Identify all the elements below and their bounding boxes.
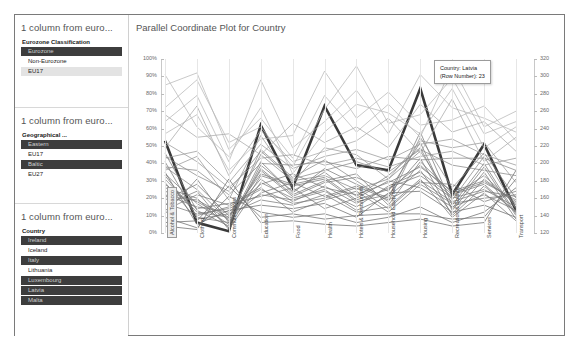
category-gridline	[165, 59, 166, 233]
y-axis-left-tick	[161, 111, 164, 112]
filter-option-eu17[interactable]: EU17	[21, 67, 122, 76]
y-axis-left-tick	[161, 233, 164, 234]
y-axis-left-tick	[161, 181, 164, 182]
parallel-coordinate-plot[interactable]: 0%10%20%30%40%50%60%70%80%90%100% 120140…	[129, 37, 566, 337]
y-axis-right-tick	[534, 146, 537, 147]
filter-option-eu17[interactable]: EU17	[21, 150, 122, 159]
filter-option-italy[interactable]: Italy	[21, 256, 122, 265]
filter-card-title: 1 column from euro...	[15, 15, 128, 39]
filter-field-name: Country	[15, 228, 128, 236]
category-gridline	[420, 59, 421, 233]
category-gridline	[197, 59, 198, 233]
filter-card-country: 1 column from euro... Country Ireland Ic…	[15, 204, 128, 337]
y-axis-right-label: 160	[540, 194, 549, 200]
chart-tooltip: Country: Latvia (Row Number): 23	[434, 60, 491, 84]
y-axis-left-label: 20%	[129, 194, 157, 200]
filter-card-title: 1 column from euro...	[15, 204, 128, 228]
filter-option-iceland[interactable]: Iceland	[21, 246, 122, 255]
y-axis-left-tick	[161, 163, 164, 164]
y-axis-left-label: 80%	[129, 90, 157, 96]
y-axis-left-label: 10%	[129, 212, 157, 218]
category-gridline	[325, 59, 326, 233]
filter-option-lithuania[interactable]: Lithuania	[21, 266, 122, 275]
filter-option-baltic[interactable]: Baltic	[21, 160, 122, 169]
filter-option-malta[interactable]: Malta	[21, 296, 122, 305]
filter-card-geographical: 1 column from euro... Geographical ... E…	[15, 108, 128, 204]
category-gridline	[293, 59, 294, 233]
filter-option-ireland[interactable]: Ireland	[21, 236, 122, 245]
x-axis-category-label[interactable]: Health	[327, 222, 333, 238]
filter-field-name: Eurozone Classification	[15, 39, 128, 47]
filter-option-non-eurozone[interactable]: Non-Eurozone	[21, 57, 122, 66]
series-line[interactable]	[165, 148, 516, 226]
filter-option-eastern[interactable]: Eastern	[21, 140, 122, 149]
filter-option-latvia[interactable]: Latvia	[21, 286, 122, 295]
y-axis-right-label: 240	[540, 125, 549, 131]
x-axis-category-label[interactable]: Food	[295, 225, 301, 238]
y-axis-right-tick	[534, 129, 537, 130]
y-axis-left-label: 50%	[129, 142, 157, 148]
y-axis-right-label: 320	[540, 55, 549, 61]
tooltip-line-country: Country: Latvia	[440, 64, 485, 72]
filter-option-eurozone[interactable]: Eurozone	[21, 47, 122, 56]
filter-option-luxembourg[interactable]: Luxembourg	[21, 276, 122, 285]
y-axis-left-label: 60%	[129, 125, 157, 131]
y-axis-left-label: 30%	[129, 177, 157, 183]
filter-column: 1 column from euro... Eurozone Classific…	[15, 15, 129, 335]
y-axis-right-tick	[534, 216, 537, 217]
y-axis-right-tick	[534, 163, 537, 164]
x-axis-category-label[interactable]: Recreation & Culture	[454, 187, 460, 238]
y-axis-right-tick	[534, 111, 537, 112]
y-axis-right-tick	[534, 94, 537, 95]
y-axis-right-label: 300	[540, 72, 549, 78]
y-axis-left-label: 40%	[129, 159, 157, 165]
x-axis-category-label[interactable]: Clothing	[199, 218, 205, 238]
x-axis-category-label[interactable]: Hotels & Restaurants	[358, 186, 364, 238]
screenshot-root: 1 column from euro... Eurozone Classific…	[0, 0, 579, 352]
x-axis-category-label[interactable]: Communications	[231, 197, 237, 238]
y-axis-left-tick	[161, 94, 164, 95]
x-axis-category-label[interactable]: Housing	[422, 218, 428, 238]
filter-option-list: Eastern EU17 Baltic EU27	[15, 140, 128, 186]
y-axis-left-tick	[161, 216, 164, 217]
y-axis-left-label: 0%	[129, 229, 157, 235]
filter-option-list: Eurozone Non-Eurozone EU17	[15, 47, 128, 83]
category-gridline	[484, 59, 485, 233]
y-axis-right-label: 200	[540, 159, 549, 165]
x-axis-category-label[interactable]: Services	[486, 217, 492, 238]
chart-title: Parallel Coordinate Plot for Country	[129, 15, 564, 33]
x-axis-category-label[interactable]: Household Equipment	[390, 184, 396, 238]
y-axis-right-label: 260	[540, 107, 549, 113]
category-gridline	[516, 59, 517, 233]
y-axis-right-tick	[534, 59, 537, 60]
series-line[interactable]	[165, 75, 516, 174]
filter-card-eurozone-classification: 1 column from euro... Eurozone Classific…	[15, 15, 128, 108]
category-gridline	[229, 59, 230, 233]
y-axis-right-label: 220	[540, 142, 549, 148]
y-axis-right-tick	[534, 76, 537, 77]
y-axis-left-tick	[161, 76, 164, 77]
y-axis-left-label: 70%	[129, 107, 157, 113]
plot-lines-svg	[129, 37, 566, 337]
category-gridline	[261, 59, 262, 233]
x-axis-category-label[interactable]: Transport	[518, 215, 524, 238]
filter-option-list: Ireland Iceland Italy Lithuania Luxembou…	[15, 236, 128, 312]
tooltip-line-row-number: (Row Number): 23	[440, 72, 485, 80]
filter-option-eu27[interactable]: EU27	[21, 170, 122, 179]
y-axis-right-tick	[534, 181, 537, 182]
y-axis-left-tick	[161, 59, 164, 60]
y-axis-right-tick	[534, 198, 537, 199]
filter-field-name: Geographical ...	[15, 132, 128, 140]
chart-panel: Parallel Coordinate Plot for Country 0%1…	[129, 15, 564, 335]
dashboard-frame: 1 column from euro... Eurozone Classific…	[14, 14, 565, 336]
filter-card-title: 1 column from euro...	[15, 108, 128, 132]
y-axis-right-label: 140	[540, 212, 549, 218]
y-axis-right-tick	[534, 233, 537, 234]
y-axis-left-tick	[161, 198, 164, 199]
y-axis-right-label: 120	[540, 229, 549, 235]
y-axis-left-label: 100%	[129, 55, 157, 61]
y-axis-left-tick	[161, 146, 164, 147]
x-axis-category-label[interactable]: Education	[263, 214, 269, 238]
y-axis-right-label: 180	[540, 177, 549, 183]
x-axis-category-label[interactable]: Alcohol & Tobacco	[167, 187, 177, 238]
